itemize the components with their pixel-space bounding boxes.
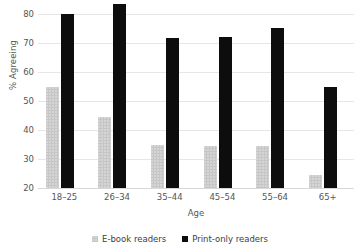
bar-print bbox=[61, 14, 74, 188]
y-axis-ticks: 80706050403020 bbox=[0, 14, 34, 188]
legend-item[interactable]: Print-only readers bbox=[182, 234, 268, 244]
bar-group bbox=[38, 14, 91, 188]
legend-label: Print-only readers bbox=[192, 234, 268, 244]
y-tick-label: 60 bbox=[4, 68, 34, 76]
bar-group bbox=[196, 14, 249, 188]
chart-title bbox=[0, 0, 360, 3]
x-axis-title: Age bbox=[38, 208, 354, 218]
y-tick-label: 30 bbox=[4, 155, 34, 163]
plot-area bbox=[38, 14, 354, 188]
x-tick-label: 45–54 bbox=[196, 192, 249, 202]
bar-groups bbox=[38, 14, 354, 188]
y-tick-label: 70 bbox=[4, 39, 34, 47]
y-tick-label: 80 bbox=[4, 10, 34, 18]
bar-ebook bbox=[204, 146, 217, 188]
legend-label: E-book readers bbox=[102, 234, 166, 244]
x-tick-label: 18–25 bbox=[38, 192, 91, 202]
x-axis-tick-labels: 18–2526–3435–4445–5455–6465+ bbox=[38, 192, 354, 202]
bar-print bbox=[219, 37, 232, 188]
bar-group bbox=[143, 14, 196, 188]
x-tick-label: 35–44 bbox=[143, 192, 196, 202]
y-tick-label: 40 bbox=[4, 126, 34, 134]
bar-print bbox=[324, 87, 337, 188]
bar-group bbox=[301, 14, 354, 188]
bar-chart: % Agreeing 80706050403020 18–2526–3435–4… bbox=[0, 0, 360, 252]
legend-item[interactable]: E-book readers bbox=[92, 234, 166, 244]
chart-legend: E-book readersPrint-only readers bbox=[0, 234, 360, 244]
bar-group bbox=[249, 14, 302, 188]
bar-ebook bbox=[309, 175, 322, 188]
bar-group bbox=[91, 14, 144, 188]
y-tick-label: 50 bbox=[4, 97, 34, 105]
x-tick-label: 65+ bbox=[301, 192, 354, 202]
bar-ebook bbox=[46, 87, 59, 189]
gridline bbox=[38, 188, 354, 189]
bar-ebook bbox=[256, 146, 269, 188]
bar-ebook bbox=[98, 117, 111, 188]
legend-swatch-ebook bbox=[92, 236, 98, 242]
bar-print bbox=[271, 28, 284, 188]
x-tick-label: 55–64 bbox=[249, 192, 302, 202]
y-tick-label: 20 bbox=[4, 184, 34, 192]
bar-print bbox=[166, 38, 179, 188]
bar-ebook bbox=[151, 145, 164, 189]
bar-print bbox=[113, 4, 126, 188]
x-tick-label: 26–34 bbox=[91, 192, 144, 202]
legend-swatch-print bbox=[182, 236, 188, 242]
